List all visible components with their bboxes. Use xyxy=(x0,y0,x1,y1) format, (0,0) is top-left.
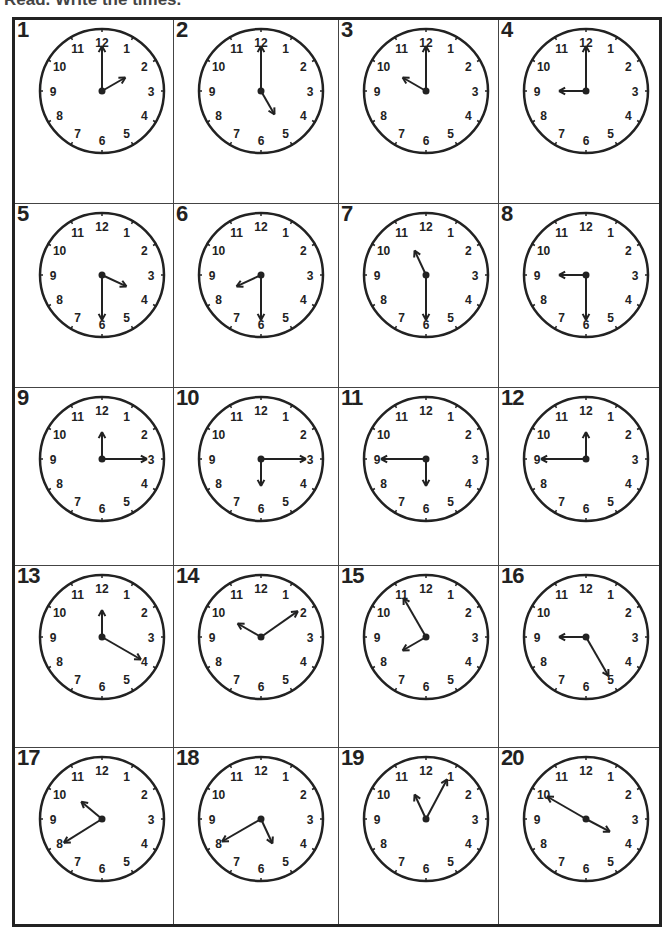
clock-numeral: 5 xyxy=(607,855,614,869)
clock-numeral: 11 xyxy=(555,226,568,240)
clock-center-pivot xyxy=(258,272,265,279)
clock-face-icon: 121234567891011 xyxy=(37,394,167,524)
clock-numeral: 1 xyxy=(123,226,130,240)
clock-numeral: 11 xyxy=(395,410,408,424)
clock-numeral: 6 xyxy=(583,680,590,694)
clock-numeral: 3 xyxy=(148,631,155,645)
clock-numeral: 2 xyxy=(625,606,632,620)
clock-numeral: 4 xyxy=(300,477,307,491)
clock-numeral: 6 xyxy=(583,862,590,876)
clock-numeral: 11 xyxy=(230,770,243,784)
clock-face-icon: 121234567891011 xyxy=(361,26,491,156)
clock-numeral: 1 xyxy=(282,226,289,240)
clock-numeral: 10 xyxy=(377,60,391,74)
clock-center-pivot xyxy=(583,634,590,641)
clock-numeral: 7 xyxy=(233,673,240,687)
clock-numeral: 1 xyxy=(447,588,454,602)
clock-numeral: 3 xyxy=(472,453,479,467)
clock-center-pivot xyxy=(99,272,106,279)
clock-numeral: 8 xyxy=(380,477,387,491)
clock-cell: 14121234567891011 xyxy=(174,566,339,748)
clock-numeral: 9 xyxy=(50,269,57,283)
clock-numeral: 7 xyxy=(558,127,565,141)
clock-cell: 9121234567891011 xyxy=(15,388,174,566)
clock-numeral: 3 xyxy=(472,631,479,645)
clock-numeral: 9 xyxy=(50,631,57,645)
clock-numeral: 2 xyxy=(141,244,148,258)
clock-numeral: 7 xyxy=(558,495,565,509)
clock-face-icon: 121234567891011 xyxy=(37,572,167,702)
clock-numeral: 9 xyxy=(50,85,57,99)
clock-center-pivot xyxy=(258,88,265,95)
clock-numeral: 9 xyxy=(50,453,57,467)
clock-numeral: 8 xyxy=(56,837,63,851)
clock-cell: 7121234567891011 xyxy=(339,204,499,388)
clock-cell: 2121234567891011 xyxy=(174,20,339,204)
clock-numeral: 6 xyxy=(258,680,265,694)
clock-center-pivot xyxy=(583,272,590,279)
clock-center-pivot xyxy=(99,634,106,641)
clock-numeral: 12 xyxy=(419,582,433,596)
clock-numeral: 6 xyxy=(583,134,590,148)
clock-numeral: 10 xyxy=(537,428,551,442)
clock-numeral: 9 xyxy=(209,85,216,99)
clock-numeral: 11 xyxy=(71,226,84,240)
clock-numeral: 4 xyxy=(465,655,472,669)
clock-numeral: 2 xyxy=(465,606,472,620)
clock-numeral: 5 xyxy=(282,495,289,509)
clock-numeral: 12 xyxy=(579,582,593,596)
clock-numeral: 3 xyxy=(632,453,639,467)
clock-numeral: 3 xyxy=(307,269,314,283)
clock-cell: 16121234567891011 xyxy=(499,566,659,748)
clock-center-pivot xyxy=(99,456,106,463)
clock-numeral: 11 xyxy=(71,42,84,56)
clock-numeral: 10 xyxy=(377,606,391,620)
clock-numeral: 5 xyxy=(123,311,130,325)
clock-numeral: 2 xyxy=(465,428,472,442)
clock-numeral: 1 xyxy=(123,588,130,602)
clock-numeral: 3 xyxy=(632,631,639,645)
clock-numeral: 10 xyxy=(53,244,67,258)
clock-numeral: 4 xyxy=(625,477,632,491)
clock-numeral: 12 xyxy=(254,582,268,596)
clock-center-pivot xyxy=(583,88,590,95)
clock-numeral: 5 xyxy=(123,127,130,141)
clock-numeral: 1 xyxy=(607,226,614,240)
clock-numeral: 5 xyxy=(607,311,614,325)
clock-numeral: 12 xyxy=(95,404,109,418)
clock-numeral: 7 xyxy=(398,855,405,869)
clock-numeral: 9 xyxy=(374,453,381,467)
clock-center-pivot xyxy=(423,816,430,823)
clock-numeral: 6 xyxy=(99,134,106,148)
clock-numeral: 10 xyxy=(53,788,67,802)
clock-numeral: 6 xyxy=(423,862,430,876)
clock-numeral: 3 xyxy=(632,269,639,283)
clock-number-label: 11 xyxy=(341,385,362,411)
clock-numeral: 4 xyxy=(625,293,632,307)
clock-numeral: 12 xyxy=(419,404,433,418)
clock-numeral: 9 xyxy=(534,269,541,283)
clock-numeral: 7 xyxy=(74,855,81,869)
clock-numeral: 1 xyxy=(607,410,614,424)
clock-numeral: 7 xyxy=(233,311,240,325)
clock-numeral: 11 xyxy=(395,226,408,240)
clock-cell: 4121234567891011 xyxy=(499,20,659,204)
clock-numeral: 12 xyxy=(579,764,593,778)
clock-face-icon: 121234567891011 xyxy=(521,572,651,702)
clock-numeral: 5 xyxy=(282,311,289,325)
clock-numeral: 6 xyxy=(258,134,265,148)
clock-numeral: 9 xyxy=(374,631,381,645)
clock-center-pivot xyxy=(99,816,106,823)
clock-face-icon: 121234567891011 xyxy=(361,754,491,884)
clock-numeral: 12 xyxy=(254,404,268,418)
clock-number-label: 7 xyxy=(341,201,352,227)
clock-numeral: 6 xyxy=(423,134,430,148)
clock-center-pivot xyxy=(423,88,430,95)
clock-numeral: 4 xyxy=(465,293,472,307)
clock-numeral: 5 xyxy=(282,127,289,141)
clock-numeral: 9 xyxy=(374,813,381,827)
clock-numeral: 11 xyxy=(71,588,84,602)
clock-numeral: 6 xyxy=(583,502,590,516)
clock-numeral: 4 xyxy=(625,837,632,851)
clock-numeral: 8 xyxy=(56,293,63,307)
